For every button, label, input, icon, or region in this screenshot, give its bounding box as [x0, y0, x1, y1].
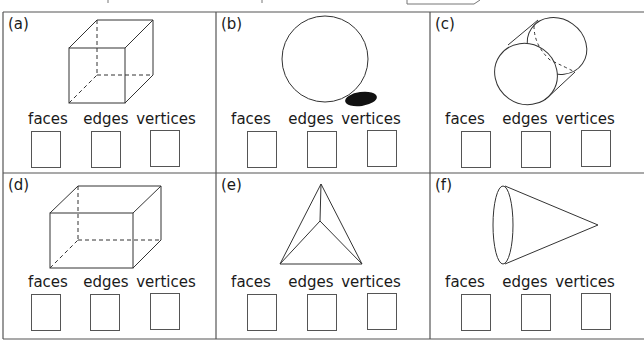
vertices-answer-box[interactable]: [367, 130, 397, 167]
faces-answer-box[interactable]: [247, 294, 277, 331]
vertices-label: vertices: [550, 110, 620, 128]
panel-label: (e): [221, 176, 242, 194]
faces-answer-box[interactable]: [31, 294, 61, 331]
vertices-answer-box[interactable]: [150, 130, 180, 167]
vertices-label: vertices: [550, 273, 620, 291]
vertices-label: vertices: [336, 273, 406, 291]
panel-label: (b): [221, 15, 242, 33]
edges-answer-box[interactable]: [521, 131, 551, 168]
edges-answer-box[interactable]: [90, 294, 120, 331]
vertices-label: vertices: [131, 273, 201, 291]
panel-e: (e) faces edges vertices: [216, 173, 430, 339]
panel-d: (d) faces edges vertices: [3, 173, 216, 339]
edges-answer-box[interactable]: [307, 294, 337, 331]
panel-label: (f): [435, 176, 452, 194]
panel-b: (b) faces edges vertices: [216, 12, 430, 173]
edges-answer-box[interactable]: [91, 131, 121, 168]
panel-label: (c): [435, 15, 455, 33]
panel-label: (a): [8, 15, 29, 33]
panel-c: (c) faces edges vertices: [430, 12, 644, 173]
vertices-label: vertices: [131, 110, 201, 128]
vertices-answer-box[interactable]: [581, 293, 611, 330]
panel-f: (f) faces edges vertices: [430, 173, 644, 339]
edges-answer-box[interactable]: [307, 131, 337, 168]
faces-answer-box[interactable]: [461, 294, 491, 331]
faces-answer-box[interactable]: [247, 131, 277, 168]
faces-answer-box[interactable]: [461, 131, 491, 168]
edges-answer-box[interactable]: [521, 294, 551, 331]
panel-a: (a) faces edges vertices: [3, 12, 216, 173]
vertices-label: vertices: [336, 110, 406, 128]
vertices-answer-box[interactable]: [367, 293, 397, 330]
vertices-answer-box[interactable]: [150, 293, 180, 330]
panel-label: (d): [8, 176, 29, 194]
faces-answer-box[interactable]: [31, 131, 61, 168]
vertices-answer-box[interactable]: [581, 130, 611, 167]
